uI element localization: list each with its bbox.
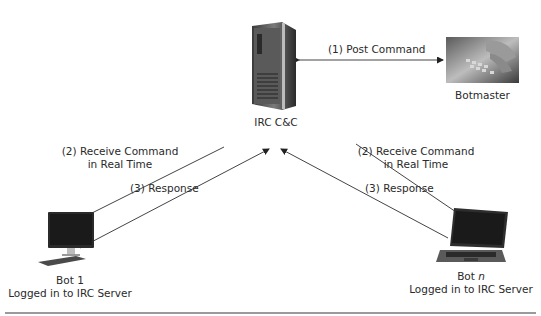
receive-right-label-line2: in Real Time <box>356 158 476 171</box>
receive-left-label-line2: in Real Time <box>60 158 180 171</box>
receive-right-label-line1: (2) Receive Command <box>356 145 476 158</box>
server-node <box>248 20 300 110</box>
botn-label-prefix: Bot <box>457 270 478 282</box>
botn-node <box>436 206 512 268</box>
bot1-node <box>36 210 100 268</box>
receive-left-label-line1: (2) Receive Command <box>60 145 180 158</box>
botn-label-line1: Bot n <box>406 270 536 283</box>
keyboard-hands-photo <box>446 37 519 83</box>
botmaster-label: Botmaster <box>446 89 519 102</box>
server-label: IRC C&C <box>246 116 306 129</box>
response-left-label: (3) Response <box>130 182 199 195</box>
botn-label-var: n <box>478 270 485 282</box>
desktop-computer-icon <box>36 210 100 268</box>
bot1-label-line1: Bot 1 <box>0 274 140 287</box>
botn-label-line2: Logged in to IRC Server <box>406 283 536 296</box>
server-tower-icon <box>248 20 300 110</box>
bot1-label-line2: Logged in to IRC Server <box>0 287 140 300</box>
botmaster-node <box>446 37 519 83</box>
post-command-label: (1) Post Command <box>328 43 425 56</box>
laptop-icon <box>436 206 512 268</box>
response-right-label: (3) Response <box>365 182 434 195</box>
